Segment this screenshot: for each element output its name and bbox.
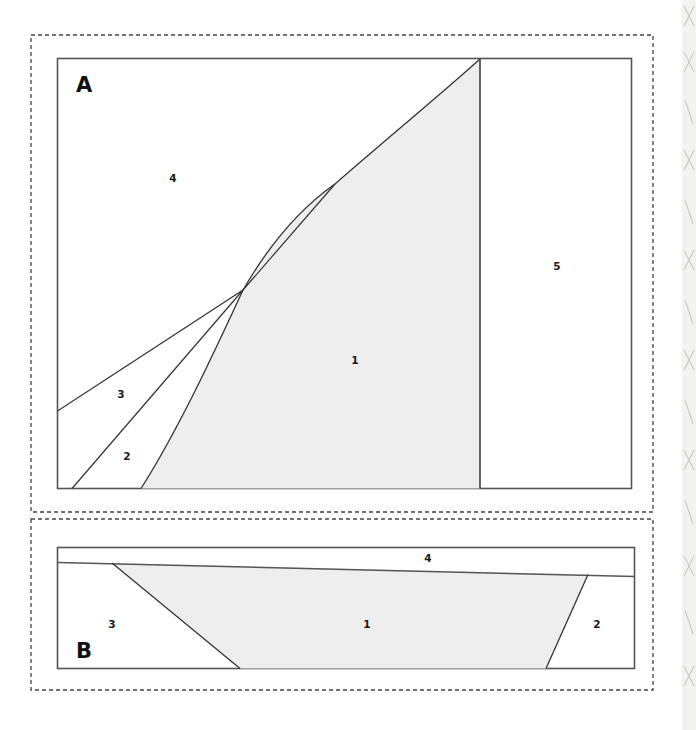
panel-b: B 1 2 3 4 [31, 519, 653, 690]
panel-b-region-label-1: 1 [363, 618, 370, 630]
panel-a-region-label-5: 5 [553, 260, 560, 272]
panel-a-letter: A [76, 73, 93, 97]
panel-a-region-label-4: 4 [169, 172, 176, 184]
panel-b-letter: B [76, 639, 92, 663]
panel-a-region-label-1: 1 [351, 354, 358, 366]
panel-b-region-label-3: 3 [108, 618, 115, 630]
panel-b-region-label-4: 4 [424, 552, 431, 564]
figure-svg: A 1 2 3 4 5 B 1 2 3 4 [0, 0, 696, 730]
panel-b-region-label-2: 2 [593, 618, 600, 630]
panel-a-region-label-3: 3 [117, 388, 124, 400]
figure-root: A 1 2 3 4 5 B 1 2 3 4 [0, 0, 696, 730]
page-edge-strip [682, 0, 696, 730]
panel-a-region-label-2: 2 [123, 450, 130, 462]
panel-a: A 1 2 3 4 5 [31, 35, 653, 512]
page-edge-marks [682, 0, 696, 730]
